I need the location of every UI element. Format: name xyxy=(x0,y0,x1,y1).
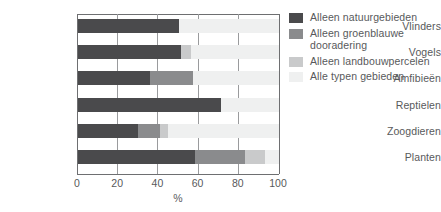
legend-label: Alleen groenblauwe dooradering xyxy=(310,27,439,52)
bar-segment xyxy=(78,45,181,59)
x-axis-title: % xyxy=(77,192,279,204)
bar-segment xyxy=(78,150,195,164)
bar-segment xyxy=(78,71,150,85)
plot-frame-bottom xyxy=(77,174,279,175)
bar-segment xyxy=(265,150,279,164)
bar-segment xyxy=(160,124,168,138)
category-label: Reptielen xyxy=(369,99,441,111)
x-tick-label: 40 xyxy=(143,177,171,189)
chart-legend: Alleen natuurgebiedenAlleen groenblauwe … xyxy=(289,11,439,86)
bar-row xyxy=(78,19,278,33)
bar-segment xyxy=(179,19,280,33)
stacked-bar-chart: VlindersVogelsAmfibieënReptielenZoogdier… xyxy=(0,0,441,212)
bar-segment xyxy=(195,150,245,164)
bar-segment xyxy=(181,45,191,59)
legend-label: Alleen natuurgebieden xyxy=(310,11,417,24)
legend-swatch-icon xyxy=(289,72,303,82)
bar-segment xyxy=(191,45,279,59)
bar-segment xyxy=(150,71,192,85)
bar-row xyxy=(78,98,278,112)
x-tick-label: 0 xyxy=(63,177,91,189)
legend-swatch-icon xyxy=(289,29,303,39)
legend-item: Alle typen gebieden xyxy=(289,70,439,83)
bar-row xyxy=(78,45,278,59)
legend-item: Alleen groenblauwe dooradering xyxy=(289,27,439,52)
legend-swatch-icon xyxy=(289,57,303,67)
bar-segment xyxy=(221,98,279,112)
category-label: Planten xyxy=(369,151,441,163)
bar-segment xyxy=(78,98,221,112)
bar-segment xyxy=(78,124,138,138)
x-tick-label: 80 xyxy=(224,177,252,189)
bar-row xyxy=(78,71,278,85)
x-tick-label: 100 xyxy=(264,177,292,189)
bar-segment xyxy=(245,150,265,164)
category-label: Zoogdieren xyxy=(369,125,441,137)
x-tick-label: 20 xyxy=(103,177,131,189)
bar-segment xyxy=(193,71,279,85)
bar-segment xyxy=(168,124,279,138)
bar-row xyxy=(78,150,278,164)
bar-segment xyxy=(78,19,179,33)
legend-label: Alle typen gebieden xyxy=(310,70,404,83)
bar-row xyxy=(78,124,278,138)
legend-swatch-icon xyxy=(289,13,303,23)
bar-segment xyxy=(138,124,160,138)
x-tick-label: 60 xyxy=(184,177,212,189)
legend-item: Alleen landbouwpercelen xyxy=(289,55,439,68)
legend-item: Alleen natuurgebieden xyxy=(289,11,439,24)
legend-label: Alleen landbouwpercelen xyxy=(310,55,430,68)
